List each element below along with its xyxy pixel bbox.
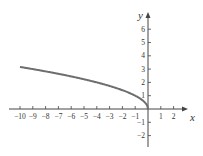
- x-tick-label: −4: [93, 112, 101, 121]
- x-tick-label: −9: [29, 112, 37, 121]
- curve-sqrt-neg-x: [20, 67, 148, 109]
- x-tick-label: −6: [67, 112, 75, 121]
- x-tick-label: −8: [42, 112, 50, 121]
- y-tick-label: 3: [141, 65, 145, 74]
- y-axis-arrow-icon: [146, 12, 151, 18]
- graph: −10−9−8−7−6−5−4−3−2−112−2−1123456 x y: [0, 0, 203, 156]
- x-axis-arrow-icon: [182, 107, 188, 112]
- y-tick-label: −1: [137, 118, 145, 127]
- x-tick-label: 1: [159, 112, 163, 121]
- x-tick-label: −2: [118, 112, 126, 121]
- y-tick-label: 2: [141, 78, 145, 87]
- x-tick-label: 2: [172, 112, 176, 121]
- x-tick-label: −10: [14, 112, 26, 121]
- x-axis-label: x: [189, 111, 195, 123]
- axes: [9, 12, 188, 147]
- y-tick-label: 6: [141, 25, 145, 34]
- x-tick-label: −3: [106, 112, 114, 121]
- y-axis-label: y: [137, 9, 143, 21]
- y-tick-label: 5: [141, 38, 145, 47]
- x-tick-label: −7: [54, 112, 62, 121]
- y-tick-label: −2: [137, 131, 145, 140]
- x-tick-label: −5: [80, 112, 88, 121]
- y-tick-label: 4: [141, 51, 145, 60]
